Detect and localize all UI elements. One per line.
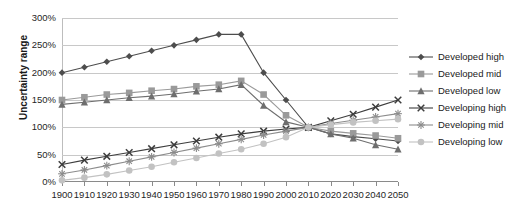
data-point-circle: [216, 150, 223, 157]
data-point-circle: [283, 134, 290, 141]
x-axis-tick: [376, 182, 377, 186]
legend-item-label: Developing low: [434, 136, 502, 147]
y-axis-tick-label: 50%: [8, 149, 56, 160]
x-axis-tick: [398, 182, 399, 186]
legend-marker-asterisk-icon: [408, 118, 434, 132]
y-axis-tick-label: 250%: [8, 39, 56, 50]
data-point-asterisk: [215, 140, 223, 148]
data-point-asterisk: [417, 121, 425, 129]
data-point-circle: [171, 159, 178, 166]
chart-legend: Developed highDeveloped midDeveloped low…: [408, 48, 524, 150]
x-axis-tick: [129, 182, 130, 186]
data-point-asterisk: [193, 144, 201, 152]
x-axis-tick: [174, 182, 175, 186]
legend-item[interactable]: Developing low: [408, 133, 524, 150]
y-axis-tick-label: 200%: [8, 67, 56, 78]
data-point-asterisk: [81, 166, 89, 174]
data-point-circle: [418, 138, 425, 145]
series-developed-high: [59, 31, 402, 144]
data-point-circle: [104, 171, 111, 178]
data-point-diamond: [59, 69, 66, 76]
y-axis-tick-label: 100%: [8, 121, 56, 132]
y-axis-tick-label: 0%: [8, 176, 56, 187]
data-point-square: [395, 135, 402, 142]
data-point-diamond: [126, 53, 133, 60]
data-point-diamond: [193, 37, 200, 44]
chart-container: Uncertainty range 0%50%100%150%200%250%3…: [0, 0, 524, 214]
data-point-asterisk: [125, 157, 133, 165]
x-axis-tick: [219, 182, 220, 186]
data-point-diamond: [418, 53, 425, 60]
x-axis-tick: [241, 182, 242, 186]
x-axis-tick: [196, 182, 197, 186]
data-point-diamond: [81, 64, 88, 71]
legend-item[interactable]: Developed high: [408, 48, 524, 65]
data-point-square: [260, 91, 267, 98]
data-point-asterisk: [103, 162, 111, 170]
data-point-diamond: [171, 42, 178, 49]
data-point-diamond: [148, 48, 155, 55]
legend-item-label: Developed high: [434, 51, 504, 62]
data-point-circle: [81, 174, 88, 181]
series-developing-low: [59, 116, 402, 184]
data-point-circle: [126, 167, 133, 174]
data-point-diamond: [104, 58, 111, 65]
legend-marker-diamond-icon: [408, 50, 434, 64]
data-point-circle: [305, 124, 312, 131]
data-point-circle: [350, 119, 357, 126]
legend-marker-triangle-icon: [408, 84, 434, 98]
data-point-asterisk: [58, 170, 66, 178]
x-axis-tick: [308, 182, 309, 186]
data-point-square: [372, 132, 379, 139]
data-point-asterisk: [260, 131, 268, 139]
data-point-asterisk: [148, 153, 156, 161]
data-point-triangle: [282, 118, 289, 125]
x-axis-tick: [84, 182, 85, 186]
data-point-diamond: [238, 31, 245, 38]
plot-area: 1900191019201930194019501960197019801990…: [62, 18, 398, 182]
data-point-circle: [193, 155, 200, 162]
legend-item[interactable]: Developed low: [408, 82, 524, 99]
y-axis-tick-label: 300%: [8, 12, 56, 23]
y-axis-tick-label: 150%: [8, 94, 56, 105]
data-point-circle: [260, 140, 267, 147]
legend-item[interactable]: Developing high: [408, 99, 524, 116]
data-point-asterisk: [170, 149, 178, 157]
data-point-circle: [238, 146, 245, 153]
data-point-circle: [59, 177, 66, 184]
data-point-circle: [395, 116, 402, 123]
x-axis-tick: [152, 182, 153, 186]
legend-marker-square-icon: [408, 67, 434, 81]
legend-item-label: Developing mid: [434, 119, 503, 130]
legend-item-label: Developing high: [434, 102, 506, 113]
series-developing-mid: [58, 110, 402, 178]
data-point-x: [395, 97, 402, 104]
x-axis-tick: [286, 182, 287, 186]
legend-item[interactable]: Developing mid: [408, 116, 524, 133]
data-point-circle: [148, 163, 155, 170]
data-point-circle: [328, 121, 335, 128]
legend-item-label: Developed low: [434, 85, 500, 96]
data-point-square: [283, 112, 290, 119]
x-axis-tick: [107, 182, 108, 186]
data-point-circle: [372, 117, 379, 124]
legend-marker-x-icon: [408, 101, 434, 115]
x-axis-tick: [331, 182, 332, 186]
legend-item-label: Developed mid: [434, 68, 501, 79]
x-axis-tick: [264, 182, 265, 186]
data-point-x: [372, 104, 379, 111]
x-axis-tick-label: 2050: [381, 189, 415, 200]
data-point-square: [418, 70, 425, 77]
series-layer: [62, 18, 398, 182]
legend-item[interactable]: Developed mid: [408, 65, 524, 82]
data-point-diamond: [216, 31, 223, 38]
x-axis-tick: [353, 182, 354, 186]
legend-marker-circle-icon: [408, 135, 434, 149]
